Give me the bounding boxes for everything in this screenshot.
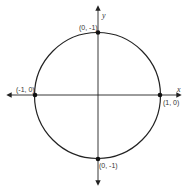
y-axis-label: y — [101, 11, 106, 20]
unit-circle — [35, 33, 161, 159]
point-bottom-label: (0, -1) — [99, 162, 118, 170]
point-right — [158, 93, 163, 98]
point-bottom — [96, 157, 101, 162]
point-left-label: (-1, 0) — [16, 86, 35, 94]
point-left — [33, 93, 38, 98]
point-top-label: (0, -1) — [79, 24, 98, 32]
point-right-label: (1, 0) — [163, 99, 179, 107]
x-axis-label: x — [176, 85, 181, 94]
unit-circle-diagram: y x (0, -1) (-1, 0) (1, 0) (0, -1) — [0, 0, 187, 186]
